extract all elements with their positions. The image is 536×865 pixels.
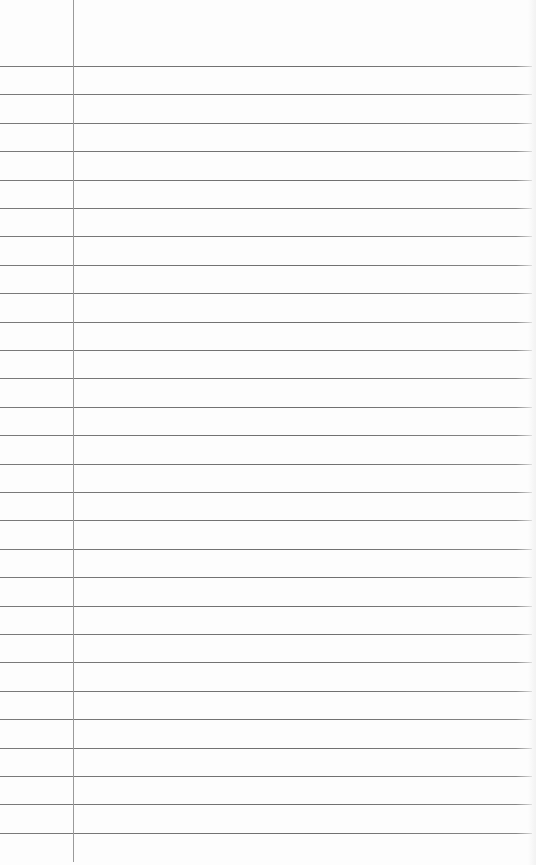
ruled-line bbox=[0, 435, 532, 436]
ruled-line bbox=[0, 293, 532, 294]
ruled-line bbox=[0, 776, 532, 777]
ruled-line bbox=[0, 804, 532, 805]
ruled-line bbox=[0, 634, 532, 635]
ruled-line bbox=[0, 350, 532, 351]
ruled-line bbox=[0, 606, 532, 607]
lined-paper-page bbox=[0, 0, 536, 865]
ruled-line bbox=[0, 748, 532, 749]
ruled-line bbox=[0, 236, 532, 237]
ruled-line bbox=[0, 492, 532, 493]
ruled-line bbox=[0, 123, 532, 124]
ruled-line bbox=[0, 464, 532, 465]
ruled-line bbox=[0, 322, 532, 323]
ruled-line bbox=[0, 719, 532, 720]
ruled-line bbox=[0, 833, 532, 834]
ruled-line bbox=[0, 94, 532, 95]
margin-line bbox=[73, 0, 74, 862]
ruled-line bbox=[0, 691, 532, 692]
ruled-line bbox=[0, 180, 532, 181]
ruled-line bbox=[0, 66, 532, 67]
ruled-line bbox=[0, 662, 532, 663]
ruled-line bbox=[0, 208, 532, 209]
ruled-line bbox=[0, 151, 532, 152]
ruled-line bbox=[0, 378, 532, 379]
ruled-line bbox=[0, 407, 532, 408]
paper-edge-shadow bbox=[528, 0, 536, 865]
ruled-line bbox=[0, 265, 532, 266]
ruled-line bbox=[0, 549, 532, 550]
ruled-line bbox=[0, 577, 532, 578]
ruled-line bbox=[0, 520, 532, 521]
